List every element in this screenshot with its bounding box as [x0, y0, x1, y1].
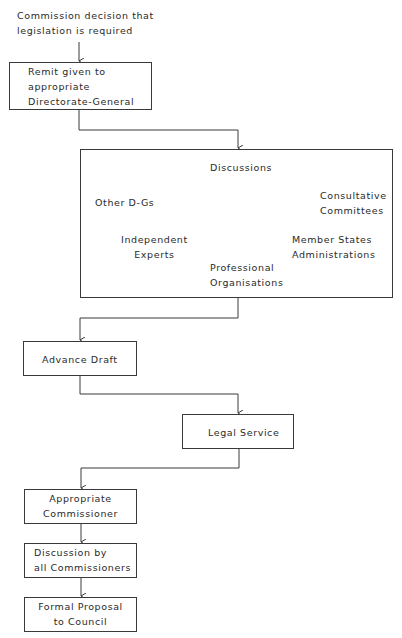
step-line: Commissioner — [24, 506, 137, 521]
step-line: Discussion by — [34, 545, 131, 560]
step-line: to Council — [24, 614, 137, 629]
legal-service-label: Legal Service — [208, 425, 279, 440]
participant-consultative-committees: Consultative Committees — [320, 188, 387, 218]
start-label: Commission decision that legislation is … — [17, 8, 154, 38]
step-line: Appropriate — [24, 491, 137, 506]
remit-line: Remit given to — [28, 64, 134, 79]
participant-line: Experts — [121, 247, 188, 262]
step-line: Formal Proposal — [24, 599, 137, 614]
participant-line: Organisations — [210, 275, 283, 290]
participant-member-states: Member States Administrations — [292, 232, 375, 262]
remit-line: Directorate-General — [28, 94, 134, 109]
remit-line: appropriate — [28, 79, 134, 94]
appropriate-commissioner-label: Appropriate Commissioner — [24, 491, 137, 521]
discussions-title: Discussions — [210, 160, 272, 175]
start-label-line: Commission decision that — [17, 8, 154, 23]
advance-draft-label: Advance Draft — [42, 352, 118, 367]
participant-professional-organisations: Professional Organisations — [210, 260, 283, 290]
participant-line: Other D-Gs — [95, 195, 154, 210]
formal-proposal-label: Formal Proposal to Council — [24, 599, 137, 629]
participant-line: Member States — [292, 232, 375, 247]
participant-independent-experts: Independent Experts — [121, 232, 188, 262]
participant-line: Consultative — [320, 188, 387, 203]
step-line: all Commissioners — [34, 560, 131, 575]
participant-line: Administrations — [292, 247, 375, 262]
start-label-line: legislation is required — [17, 23, 154, 38]
remit-label: Remit given to appropriate Directorate-G… — [28, 64, 134, 109]
participant-line: Professional — [210, 260, 283, 275]
participant-other-dgs: Other D-Gs — [95, 195, 154, 210]
discussion-all-label: Discussion by all Commissioners — [34, 545, 131, 575]
participant-line: Independent — [121, 232, 188, 247]
participant-line: Committees — [320, 203, 387, 218]
